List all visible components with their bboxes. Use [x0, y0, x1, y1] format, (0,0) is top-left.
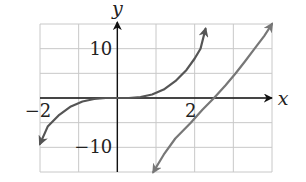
x-tick-label: −2 — [25, 100, 52, 121]
y-tick-label: 10 — [89, 38, 112, 59]
x-tick-label: 2 — [185, 100, 196, 121]
x-axis-label: x — [278, 87, 289, 109]
chart: −2210−10xy — [0, 0, 306, 182]
y-axis-label: y — [111, 0, 123, 19]
curve-1-line — [40, 29, 206, 144]
y-tick-label: −10 — [74, 136, 112, 157]
